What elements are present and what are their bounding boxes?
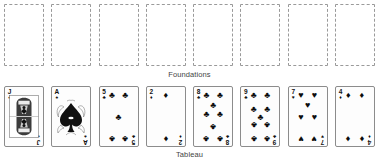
club-icon: ♣ (224, 134, 231, 139)
tableau-row: J ♠ J ♠ (4, 86, 375, 148)
heart-pip: ♥ (305, 100, 310, 109)
pip-layout-5: ♣ ♣ ♣ ♣ ♣ (107, 90, 131, 143)
ace-of-spades-ornament (54, 95, 88, 139)
card-index-bottom-right: 2 ♦ (177, 134, 184, 145)
tableau-card-6[interactable]: 9 ♣ 9 ♣ ♣ ♣ ♣ ♣ ♣ ♣ ♣ ♣ ♣ (240, 86, 280, 147)
tableau-card-5[interactable]: 8 ♣ 8 ♣ ♣ ♣ ♣ ♣ ♣ ♣ ♣ ♣ (193, 86, 233, 147)
heart-icon: ♥ (319, 134, 326, 139)
solitaire-board: Foundations J ♠ J ♠ (0, 0, 379, 163)
tableau-card-3[interactable]: 5 ♣ 5 ♣ ♣ ♣ ♣ ♣ ♣ (99, 86, 139, 147)
club-pip: ♣ (116, 112, 122, 121)
club-icon: ♣ (130, 134, 137, 139)
diamond-pip: ♦ (359, 133, 364, 142)
heart-pip: ♥ (312, 134, 317, 143)
club-pip: ♣ (217, 109, 223, 118)
diamond-icon: ♦ (177, 134, 184, 139)
tableau-card-2[interactable]: A ♠ A ♠ (51, 86, 91, 147)
card-index-bottom-right: 5 ♣ (130, 134, 137, 145)
pip-layout-4: ♦ ♦ ♦ ♦ (343, 90, 367, 143)
club-pip: ♣ (264, 104, 270, 113)
club-pip: ♣ (264, 120, 270, 129)
club-pip: ♣ (203, 134, 209, 143)
foundation-slot-8[interactable] (335, 4, 375, 66)
club-icon: ♣ (271, 134, 278, 139)
foundation-slot-6[interactable] (240, 4, 280, 66)
club-pip: ♣ (203, 90, 209, 99)
pip-layout-2: ♦ ♦ (154, 90, 178, 143)
pip-layout-8: ♣ ♣ ♣ ♣ ♣ ♣ ♣ ♣ (201, 90, 225, 143)
diamond-pip: ♦ (346, 133, 351, 142)
foundation-slot-1[interactable] (4, 4, 44, 66)
foundation-slot-5[interactable] (193, 4, 233, 66)
club-pip: ♣ (217, 90, 223, 99)
foundation-slot-3[interactable] (99, 4, 139, 66)
tableau-card-1[interactable]: J ♠ J ♠ (4, 86, 44, 147)
club-pip: ♣ (109, 133, 115, 142)
heart-pip: ♥ (298, 134, 303, 143)
club-pip: ♣ (251, 104, 257, 113)
heart-pip: ♥ (312, 112, 317, 121)
pip-layout-9: ♣ ♣ ♣ ♣ ♣ ♣ ♣ ♣ ♣ (248, 90, 272, 143)
club-pip: ♣ (264, 90, 270, 99)
tableau-card-7[interactable]: 7 ♥ 7 ♥ ♥ ♥ ♥ ♥ ♥ ♥ ♥ (288, 86, 328, 147)
foundation-slot-4[interactable] (146, 4, 186, 66)
club-pip: ♣ (203, 109, 209, 118)
pip-layout-7: ♥ ♥ ♥ ♥ ♥ ♥ ♥ (296, 90, 320, 143)
club-pip: ♣ (109, 91, 115, 100)
club-pip: ♣ (122, 133, 128, 142)
club-pip: ♣ (122, 91, 128, 100)
club-pip: ♣ (251, 90, 257, 99)
club-pip: ♣ (264, 134, 270, 143)
club-pip: ♣ (210, 122, 216, 131)
card-index-bottom-right: 7 ♥ (319, 134, 326, 145)
club-pip: ♣ (217, 134, 223, 143)
diamond-icon: ♦ (366, 134, 373, 139)
card-index-bottom-right: 4 ♦ (366, 134, 373, 145)
card-index-bottom-right: 9 ♣ (271, 134, 278, 145)
diamond-pip: ♦ (346, 91, 351, 100)
club-pip: ♣ (257, 112, 263, 121)
diamond-pip: ♦ (359, 91, 364, 100)
heart-pip: ♥ (298, 90, 303, 99)
club-pip: ♣ (251, 134, 257, 143)
foundations-label: Foundations (0, 70, 379, 79)
club-pip: ♣ (210, 101, 216, 110)
diamond-pip: ♦ (164, 133, 169, 142)
jack-court-artwork (9, 95, 39, 138)
heart-pip: ♥ (298, 112, 303, 121)
foundations-row (4, 4, 375, 68)
tableau-label: Tableau (0, 150, 379, 159)
foundation-slot-7[interactable] (288, 4, 328, 66)
tableau-card-8[interactable]: 4 ♦ 4 ♦ ♦ ♦ ♦ ♦ (335, 86, 375, 147)
card-index-bottom-right: 8 ♣ (224, 134, 231, 145)
club-pip: ♣ (251, 120, 257, 129)
tableau-card-4[interactable]: 2 ♦ 2 ♦ ♦ ♦ (146, 86, 186, 147)
heart-pip: ♥ (312, 90, 317, 99)
diamond-pip: ♦ (164, 91, 169, 100)
foundation-slot-2[interactable] (51, 4, 91, 66)
